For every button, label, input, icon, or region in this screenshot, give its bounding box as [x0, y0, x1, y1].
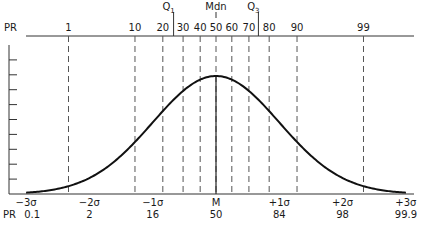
- normal-curve-chart: PR110203040506070809099Q1MdnQ3 −3σ0.1−2σ…: [0, 0, 423, 229]
- top-percentile-axis: PR110203040506070809099Q1MdnQ3: [4, 1, 414, 36]
- pr-value: 16: [146, 209, 159, 220]
- sigma-label: −1σ: [142, 197, 164, 208]
- top-axis-label: PR: [4, 22, 17, 33]
- percentile-label-40: 40: [194, 22, 207, 33]
- quartile-label-Q3: Q3: [247, 1, 259, 15]
- pr-value: 50: [210, 209, 223, 220]
- pr-value: 99.9: [395, 209, 417, 220]
- pr-value: 0.1: [24, 209, 40, 220]
- sigma-label: M: [212, 197, 221, 208]
- pr-value: 2: [86, 209, 92, 220]
- percentile-guide-lines: [69, 36, 364, 194]
- percentile-label-50: 50: [210, 22, 223, 33]
- percentile-label-80: 80: [263, 22, 276, 33]
- percentile-label-20: 20: [156, 22, 169, 33]
- median-label: Mdn: [205, 1, 226, 12]
- percentile-label-30: 30: [177, 22, 190, 33]
- percentile-label-1: 1: [65, 22, 71, 33]
- pr-value: 84: [273, 209, 286, 220]
- percentile-label-70: 70: [243, 22, 256, 33]
- pr-value: 98: [336, 209, 349, 220]
- bottom-pr-label: PR: [3, 209, 16, 220]
- bottom-sigma-labels: −3σ0.1−2σ2−1σ16M50+1σ84+2σ98+3σ99.9PR: [3, 197, 417, 220]
- percentile-label-10: 10: [129, 22, 142, 33]
- percentile-label-60: 60: [225, 22, 238, 33]
- sigma-label: +3σ: [395, 197, 417, 208]
- sigma-label: +1σ: [269, 197, 291, 208]
- sigma-label: −3σ: [16, 197, 38, 208]
- percentile-label-99: 99: [357, 22, 370, 33]
- quartile-label-Q1: Q1: [162, 1, 174, 15]
- sigma-label: −2σ: [79, 197, 101, 208]
- left-axis: [9, 45, 17, 194]
- percentile-label-90: 90: [291, 22, 304, 33]
- sigma-label: +2σ: [332, 197, 354, 208]
